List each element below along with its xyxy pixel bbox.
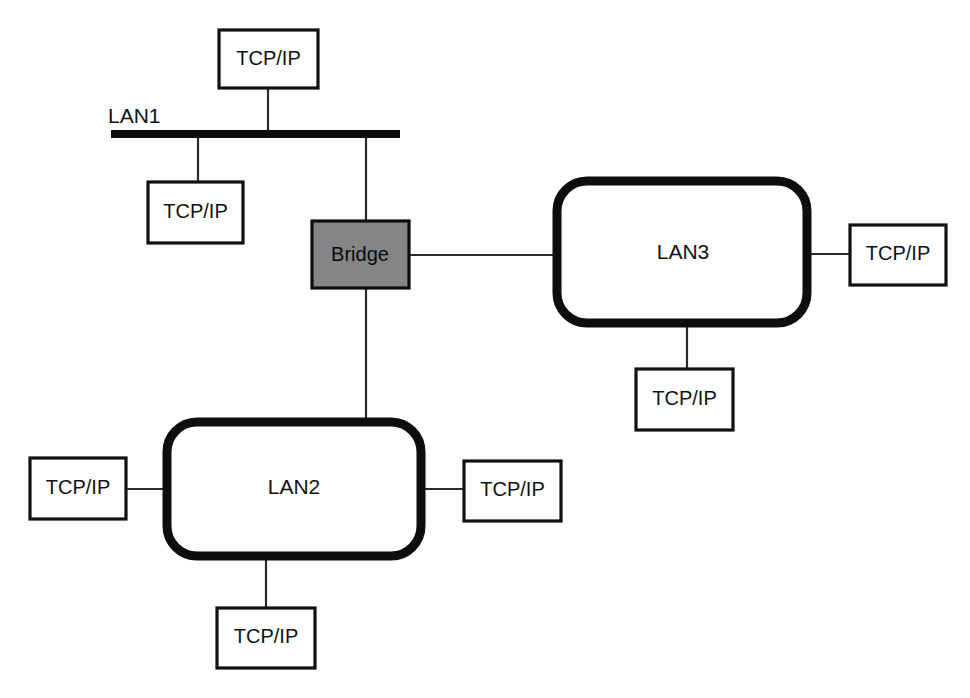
- host-label: TCP/IP: [652, 387, 716, 409]
- lan3-label: LAN3: [657, 240, 710, 263]
- host-label: TCP/IP: [480, 478, 544, 500]
- host-lan1-left[interactable]: TCP/IP: [148, 182, 243, 243]
- host-label: TCP/IP: [163, 200, 227, 222]
- bridge-node[interactable]: Bridge: [312, 221, 409, 288]
- host-label: TCP/IP: [46, 476, 110, 498]
- host-lan2-bottom[interactable]: TCP/IP: [217, 608, 315, 668]
- lan2-node[interactable]: LAN2: [167, 422, 421, 556]
- host-label: TCP/IP: [236, 47, 300, 69]
- lan1-bus-bar[interactable]: [111, 130, 400, 138]
- host-label: TCP/IP: [866, 242, 930, 264]
- lan2-label: LAN2: [268, 475, 321, 498]
- host-lan2-left[interactable]: TCP/IP: [30, 458, 126, 519]
- bridge-label: Bridge: [331, 243, 389, 265]
- network-topology-svg: LAN1 TCP/IP TCP/IP Bridge LAN3 TCP/IP: [0, 0, 970, 698]
- lan1-bus-group[interactable]: LAN1: [108, 104, 400, 138]
- host-lan3-bottom[interactable]: TCP/IP: [636, 369, 733, 430]
- lan1-label: LAN1: [108, 104, 161, 127]
- host-lan2-right[interactable]: TCP/IP: [464, 461, 561, 521]
- host-lan3-right[interactable]: TCP/IP: [850, 225, 946, 285]
- network-diagram-canvas: LAN1 TCP/IP TCP/IP Bridge LAN3 TCP/IP: [0, 0, 970, 698]
- host-label: TCP/IP: [234, 625, 298, 647]
- lan3-node[interactable]: LAN3: [557, 181, 807, 323]
- host-lan1-top[interactable]: TCP/IP: [219, 30, 318, 88]
